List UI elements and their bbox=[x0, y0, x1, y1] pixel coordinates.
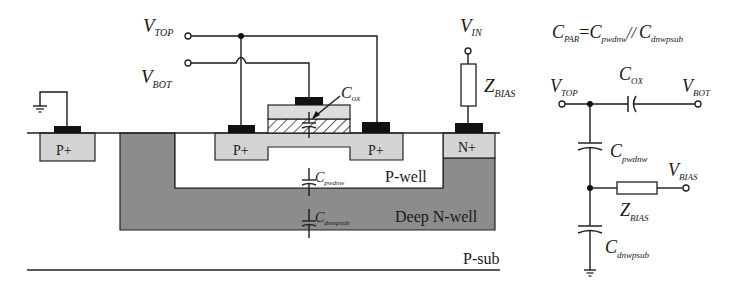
v-in-bias-network bbox=[461, 48, 476, 123]
v-in-label: VIN bbox=[460, 15, 483, 38]
eq-c-pwdnw-label: Cpwdnw bbox=[610, 141, 648, 164]
n-plus-label: N+ bbox=[458, 140, 476, 155]
cross-section: VTOP VBOT VIN ZBIAS Cox Cpwdnw Cdnwpsub … bbox=[27, 15, 515, 270]
eq-v-bias-label: VBIAS bbox=[668, 160, 698, 182]
v-bot-terminal-icon bbox=[185, 60, 191, 66]
eq-v-top-label: VTOP bbox=[550, 76, 578, 98]
deep-n-well-label: Deep N-well bbox=[395, 208, 478, 226]
eq-z-bias-resistor-icon bbox=[617, 182, 657, 194]
contact-source bbox=[228, 125, 255, 133]
v-top-label: VTOP bbox=[143, 15, 173, 38]
diagram-canvas: VTOP VBOT VIN ZBIAS Cox Cpwdnw Cdnwpsub … bbox=[0, 0, 741, 291]
p-plus-left-label: P+ bbox=[56, 143, 72, 158]
contact-gate bbox=[295, 97, 323, 105]
z-bias-label: ZBIAS bbox=[484, 75, 515, 99]
contact-left bbox=[54, 126, 81, 133]
equivalent-circuit: CPAR=Cpwdnw//Cdnwpsub bbox=[550, 22, 711, 276]
v-bot-label: VBOT bbox=[141, 66, 173, 90]
ground-icon bbox=[33, 92, 67, 126]
eq-v-bot-label: VBOT bbox=[682, 76, 711, 98]
c-par-equation: CPAR=Cpwdnw//Cdnwpsub bbox=[552, 22, 683, 44]
p-well-label: P-well bbox=[385, 168, 427, 185]
eq-v-top-terminal-icon bbox=[559, 101, 565, 107]
eq-c-dnwpsub-label: Cdnwpsub bbox=[605, 237, 650, 260]
eq-z-bias-label: ZBIAS bbox=[620, 200, 649, 223]
p-plus-source-label: P+ bbox=[233, 143, 249, 158]
p-plus-drain-label: P+ bbox=[368, 143, 384, 158]
c-ox-label: Cox bbox=[341, 84, 360, 103]
eq-ground-icon bbox=[584, 270, 596, 276]
eq-v-bot-terminal-icon bbox=[695, 101, 701, 107]
junction-dot-icon bbox=[238, 33, 244, 39]
v-bot-wire bbox=[185, 58, 309, 98]
resistor-icon bbox=[461, 64, 476, 106]
p-sub-label: P-sub bbox=[463, 250, 499, 267]
v-in-terminal-icon bbox=[465, 48, 471, 54]
contact-n-plus bbox=[455, 123, 483, 133]
eq-v-bias-terminal-icon bbox=[683, 185, 689, 191]
eq-c-ox-label: COX bbox=[619, 64, 644, 86]
v-top-terminal-icon bbox=[185, 33, 191, 39]
contact-drain bbox=[362, 122, 390, 133]
